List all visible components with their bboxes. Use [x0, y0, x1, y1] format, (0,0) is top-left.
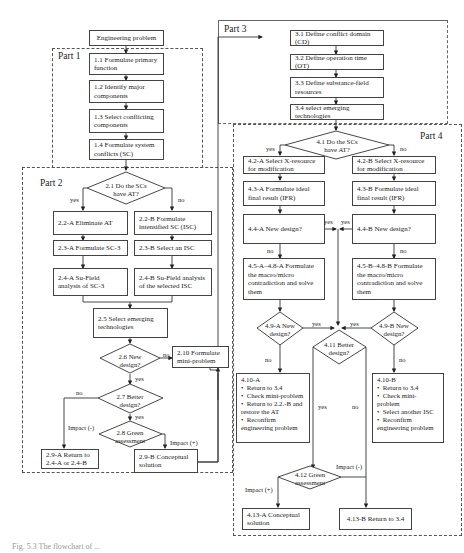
label-4-9-a-no: no — [265, 356, 272, 363]
step-4-5-b: 4.5-B–4.8-B Formulate the macro/micro co… — [352, 258, 436, 300]
step-4-10-a-item: • Check mini-problem — [241, 392, 305, 400]
decision-2-7-text: 2.7 Better design? — [112, 393, 148, 408]
step-4-5-a: 4.5-A–4.8-A Formulate the macro/micro co… — [243, 258, 325, 300]
step-2-4-b: 2.4-B Su-Field analysis of the selected … — [134, 268, 212, 296]
step-3-4: 3.4 select emerging technologies — [290, 104, 384, 120]
decision-4-12-text: 4.12 Green assessment — [290, 471, 330, 486]
label-4-9-a-yes: yes — [312, 320, 321, 327]
decision-2-1-text: 2.1 Do the SCs have AT? — [100, 182, 152, 197]
label-2-1-yes: yes — [70, 196, 79, 203]
decision-4-9-b-text: 4.9-B New design? — [376, 322, 412, 337]
step-2-3-b: 2.3-B Select an ISC — [134, 240, 212, 256]
label-4-4-a-no: no — [267, 247, 274, 254]
decision-2-8-text: 2.8 Green assessment — [110, 429, 150, 444]
label-4-4-a-yes: yes — [324, 218, 333, 225]
step-2-9-a: 2.9-A Return to 2.4-A or 2.4-B — [41, 449, 99, 469]
label-2-7-yes: yes — [135, 413, 144, 420]
label-4-4-b-no: no — [400, 247, 407, 254]
decision-4-9-a-text: 4.9-A New design? — [262, 322, 298, 337]
label-4-4-b-yes: yes — [341, 218, 350, 225]
step-3-3: 3.3 Define substance-field resources — [290, 77, 384, 98]
label-4-12-impact-neg: Impact (-) — [336, 463, 362, 470]
step-4-10-b-item: • Return to 3.4 — [377, 384, 439, 392]
step-4-3-a: 4.3-A Formulate ideal final result (IFR) — [243, 181, 325, 206]
step-1-2: 1.2 Identify major components — [89, 80, 164, 103]
label-4-12-impact-pos: Impact (+) — [245, 486, 273, 493]
step-2-9-b: 2.9-B Conceptual solution — [134, 449, 198, 473]
step-2-5: 2.5 Select emerging technologies — [93, 308, 168, 338]
label-2-6-yes: yes — [135, 375, 144, 382]
step-4-2-a: 4.2-A Select X-resource for modification — [243, 156, 325, 174]
label-4-1-no: no — [400, 145, 407, 152]
step-4-4-b: 4.4-B New design? — [352, 214, 436, 244]
engineering-problem-box: Engineering problem — [89, 30, 164, 46]
label-2-1-no: no — [178, 196, 185, 203]
step-2-4-a: 2.4-A Su-Field analysis of SC-3 — [53, 268, 128, 296]
label-4-9-b-no: no — [399, 356, 406, 363]
decision-2-6-text: 2.6 New design? — [112, 353, 148, 368]
label-4-11-yes: yes — [318, 403, 327, 410]
step-4-2-b: 4.2-B Select X-resource for modification — [352, 156, 436, 174]
figure-caption: Fig. 5.3 The flowchart of ... — [12, 542, 100, 551]
step-4-10-b-item: • Check mini-problem — [377, 392, 439, 408]
step-4-10-a-title: 4.10-A — [241, 376, 305, 384]
step-4-10-b-item: • Select another ISC — [377, 408, 439, 416]
step-3-1: 3.1 Define conflict domain (CD) — [290, 30, 384, 46]
step-3-2: 3.2 Define operation time (OT) — [290, 54, 384, 70]
step-2-10: 2.10 Formulate mini-problem — [172, 346, 229, 368]
step-4-10-a-item: • Return to 3.4 — [241, 384, 305, 392]
step-4-10-b-item: • Reconfirm engineering problem — [377, 416, 439, 432]
step-1-4: 1.4 Formulate system conflicts (SC) — [89, 139, 164, 160]
step-4-10-a: 4.10-A • Return to 3.4 • Check mini-prob… — [236, 373, 310, 443]
step-4-10-b-title: 4.10-B — [377, 376, 439, 384]
label-2-8-impact-neg: Impact (-) — [68, 424, 94, 431]
step-4-3-b: 4.3-B Formulate ideal final result (IFR) — [352, 181, 436, 206]
step-2-2-b: 2.2-B Formulate intensified SC (ISC) — [134, 211, 212, 235]
label-2-7-no: no — [76, 389, 83, 396]
step-4-10-a-item: • Reconfirm engineering problem — [241, 416, 305, 432]
step-4-10-a-item: • Return to 2.2.-B and restore the AT — [241, 400, 305, 416]
step-4-10-b: 4.10-B • Return to 3.4 • Check mini-prob… — [372, 373, 444, 443]
step-4-13-a: 4.13-A Conceptual solution — [242, 508, 310, 530]
step-2-3-a: 2.3-A Formulate SC-3 — [53, 240, 128, 256]
label-4-1-yes: yes — [266, 145, 275, 152]
label-4-11-no: no — [352, 403, 359, 410]
label-4-9-b-yes: yes — [350, 320, 359, 327]
step-4-13-b: 4.13-B Return to 3.4 — [339, 508, 412, 530]
decision-4-1-text: 4.1 Do the SCs have AT? — [311, 138, 363, 153]
step-2-2-a: 2.2-A Eliminate AT — [53, 211, 128, 235]
label-2-6-no: no — [163, 351, 170, 358]
step-1-3: 1.3 Select conflicting components — [89, 109, 164, 133]
step-4-4-a: 4.4-A New design? — [243, 214, 325, 244]
label-2-8-impact-pos: Impact (+) — [170, 439, 198, 446]
step-1-1: 1.1 Formulate primary function — [89, 53, 164, 75]
decision-4-11-text: 4.11 Better design? — [320, 341, 358, 356]
